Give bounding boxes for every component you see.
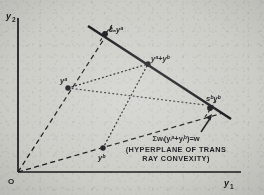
point-marker-ya-plus-yb xyxy=(145,61,150,66)
origin-label: O xyxy=(8,177,14,186)
x-axis-label-subscript: 1 xyxy=(230,183,234,190)
point-marker-yb xyxy=(100,145,105,150)
annotation-equation: Σwᵢ(yᵢᵃ+yᵢᵇ)=w xyxy=(152,134,199,143)
annotation-caption-line2: RAY CONVEXITY) xyxy=(142,154,210,163)
ray-to-sa-ya xyxy=(18,25,113,172)
point-marker-sb-yb xyxy=(207,105,213,111)
point-label-sa-ya: sₐyᵃ xyxy=(109,25,123,34)
annotation-caption-line1: (HYPERPLANE OF TRANS xyxy=(126,145,227,154)
dotted-ya-to-right xyxy=(68,88,205,105)
diagram-svg: y 2 y 1 O sₐyᵃ yᵃ yᵇ sᵇyᵇ yᵃ+yᵇ Σwᵢ(yᵢᵃ+… xyxy=(0,0,264,195)
figure-canvas: y 2 y 1 O sₐyᵃ yᵃ yᵇ sᵇyᵇ yᵃ+yᵇ Σwᵢ(yᵢᵃ+… xyxy=(0,0,264,195)
hyperplane-group xyxy=(88,25,231,119)
annotation-arrow-group xyxy=(201,114,212,132)
y-axis-label-subscript: 2 xyxy=(12,16,16,23)
axis-labels-group: y 2 y 1 O xyxy=(5,11,234,190)
x-axis-label: y xyxy=(223,178,230,188)
point-label-yb: yᵇ xyxy=(97,153,106,162)
point-label-ya-plus-yb: yᵃ+yᵇ xyxy=(150,54,171,63)
point-label-sb-yb: sᵇyᵇ xyxy=(206,94,221,103)
point-marker-sa-ya xyxy=(102,31,108,37)
dotted-ya-to-sum xyxy=(68,64,148,88)
point-markers-group xyxy=(65,31,213,151)
y-axis-label: y xyxy=(5,11,12,21)
point-label-ya: yᵃ xyxy=(59,76,67,85)
dotted-yb-to-sum xyxy=(103,64,148,148)
annotation-text-group: Σwᵢ(yᵢᵃ+yᵢᵇ)=w (HYPERPLANE OF TRANS RAY … xyxy=(126,134,227,163)
point-marker-ya xyxy=(65,85,70,90)
hyperplane-line xyxy=(88,26,231,119)
